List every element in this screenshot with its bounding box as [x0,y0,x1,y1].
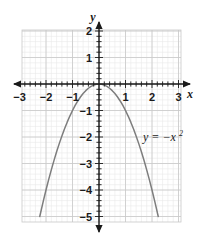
x-axis-label: x [186,87,193,101]
x-tick-label-1: 1 [122,91,128,103]
y-tick-label-2: 2 [86,25,92,37]
coordinate-plane-svg: −3−2−1123 21−1−2−3−4−5 x y y = −x 2 [0,0,204,241]
graph-figure: −3−2−1123 21−1−2−3−4−5 x y y = −x 2 [0,0,204,241]
y-tick-label--1: −1 [79,105,92,117]
x-tick-label--2: −2 [40,91,53,103]
y-tick-label--3: −3 [79,158,92,170]
y-tick-label--2: −2 [79,131,92,143]
y-tick-label--5: −5 [79,211,92,223]
equation-base: y = −x [142,130,177,144]
x-tick-label--1: −1 [66,91,79,103]
y-tick-label-1: 1 [86,52,92,64]
y-axis-label: y [88,10,96,24]
x-tick-label-2: 2 [149,91,155,103]
x-tick-label--3: −3 [13,91,26,103]
equation-exponent: 2 [179,129,183,138]
y-tick-label--4: −4 [79,184,92,196]
x-tick-label-3: 3 [175,91,181,103]
